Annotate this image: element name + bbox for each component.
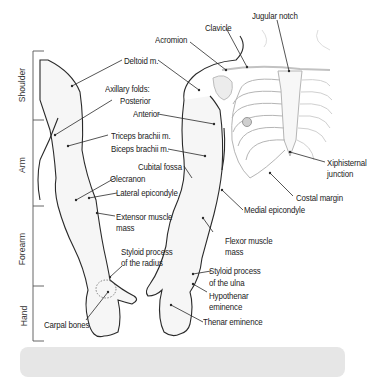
caption-box [20, 347, 345, 377]
label-styloid-ulna-2: of the ulna [209, 278, 244, 288]
region-label-arm: Arm [17, 157, 27, 173]
label-hypothenar-1: Hypothenar [209, 291, 249, 301]
label-axillary-folds: Axillary folds: [105, 84, 150, 94]
label-acromion: Acromion [155, 35, 187, 45]
label-styloid-ulna-1: Styloid process [209, 266, 261, 276]
label-costal-margin: Costal margin [296, 193, 343, 203]
rib-cage [213, 30, 332, 178]
label-xiphisternal-2: junction [327, 169, 353, 179]
label-cubital-fossa: Cubital fossa [138, 162, 182, 172]
label-extensor-mass-2: mass [116, 223, 134, 233]
label-jugular-notch: Jugular notch [252, 11, 298, 21]
label-carpal-bones: Carpal bones [44, 320, 89, 330]
label-biceps: Biceps brachii m. [111, 144, 169, 154]
label-lateral-epicondyle: Lateral epicondyle [116, 188, 178, 198]
label-styloid-radius-2: of the radius [121, 258, 163, 268]
label-triceps: Triceps brachii m. [111, 131, 171, 141]
label-posterior: Posterior [120, 96, 150, 106]
region-label-shoulder: Shoulder [17, 68, 27, 102]
region-label-forearm: Forearm [17, 233, 27, 265]
label-flexor-mass-1: Flexor muscle [225, 236, 272, 246]
region-label-hand: Hand [19, 306, 29, 327]
label-medial-epicondyle: Medial epicondyle [244, 205, 305, 215]
label-hypothenar-2: eminence [209, 302, 242, 312]
label-flexor-mass-2: mass [225, 247, 243, 257]
label-olecranon: Olecranon [110, 174, 145, 184]
label-anterior: Anterior [133, 109, 160, 119]
label-deltoid: Deltoid m. [124, 56, 158, 66]
label-clavicle: Clavicle [205, 23, 232, 33]
label-xiphisternal-1: Xiphisternal [327, 158, 367, 168]
label-extensor-mass-1: Extensor muscle [116, 212, 172, 222]
label-styloid-radius-1: Styloid process [121, 247, 173, 257]
label-thenar-eminence: Thenar eminence [203, 317, 262, 327]
